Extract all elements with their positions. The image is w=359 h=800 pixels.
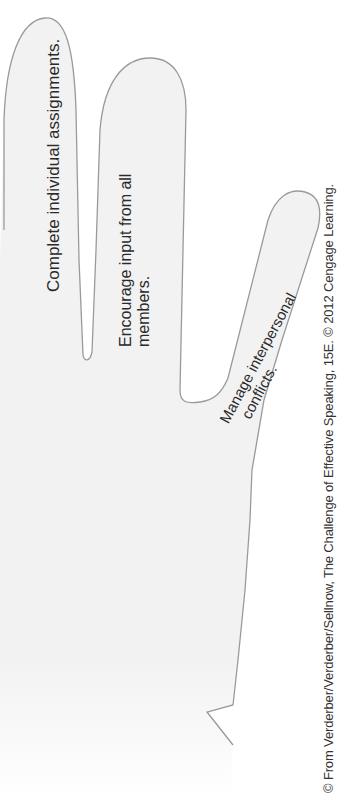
finger-label-line: Encourage input from all xyxy=(117,174,135,347)
finger-label-encourage-input: Encourage input from all members. xyxy=(117,174,154,347)
finger-label-complete-assignments: Complete individual assignments. xyxy=(44,39,64,292)
copyright-credit: © From Verderber/Verderber/Sellnow, The … xyxy=(322,184,337,793)
finger-label-line: members. xyxy=(135,174,153,347)
